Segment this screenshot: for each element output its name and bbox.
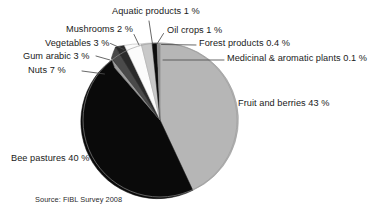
- slice-label-fruit-and-berries: Fruit and berries 43 %: [238, 98, 330, 109]
- leader-line-gum-arabic: [96, 56, 110, 60]
- slice-label-gum-arabic: Gum arabic 3 %: [23, 51, 90, 62]
- leader-line-aquatic-products: [149, 21, 153, 44]
- slice-label-bee-pastures: Bee pastures 40 %: [11, 153, 89, 164]
- slice-label-oil-crops: Oil crops 1 %: [167, 25, 222, 36]
- leader-line-mushrooms: [134, 35, 139, 46]
- slice-label-aquatic-products: Aquatic products 1 %: [112, 6, 200, 17]
- chart-source-note: Source: FiBL Survey 2008: [35, 194, 122, 205]
- slice-label-vegetables: Vegetables 3 %: [45, 38, 110, 49]
- leader-line-oil-crops: [157, 34, 164, 45]
- slice-label-mushrooms: Mushrooms 2 %: [66, 24, 133, 35]
- slice-label-forest-products: Forest products 0.4 %: [199, 38, 290, 49]
- pie-chart-figure: Aquatic products 1 % Mushrooms 2 % Oil c…: [0, 0, 368, 220]
- slice-label-nuts: Nuts 7 %: [28, 65, 66, 76]
- leader-line-forest-products: [162, 45, 197, 46]
- slice-label-medicinal-aromatic-plants: Medicinal & aromatic plants 0.1 %: [227, 53, 367, 64]
